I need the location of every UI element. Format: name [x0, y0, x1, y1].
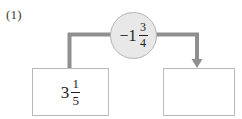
output-answer-box[interactable] [163, 68, 235, 116]
operator-sign: − [119, 28, 128, 44]
operator-denominator: 4 [139, 37, 147, 50]
input-fraction: 1 5 [71, 77, 80, 107]
connector-operator-to-output [155, 35, 203, 69]
operator-whole-number: 1 [129, 28, 137, 44]
arrowhead-icon [192, 59, 203, 68]
output-answer-placeholder [199, 92, 200, 93]
operator-expression: − 1 3 4 [119, 21, 147, 49]
connector-input-to-operator [70, 35, 113, 70]
connector-left-path [70, 35, 113, 70]
input-numerator: 1 [72, 77, 81, 91]
output-expression [199, 92, 200, 93]
operator-fraction: 3 4 [139, 21, 148, 49]
input-expression: 3 1 5 [61, 77, 81, 107]
operator-circle: − 1 3 4 [110, 12, 157, 59]
input-whole-number: 3 [61, 84, 70, 101]
connector-right-path [155, 35, 197, 61]
operator-numerator: 3 [139, 21, 147, 34]
input-value-box: 3 1 5 [32, 68, 109, 116]
function-machine-problem: (1) − 1 3 4 3 1 5 [0, 0, 242, 119]
input-denominator: 5 [72, 94, 81, 108]
